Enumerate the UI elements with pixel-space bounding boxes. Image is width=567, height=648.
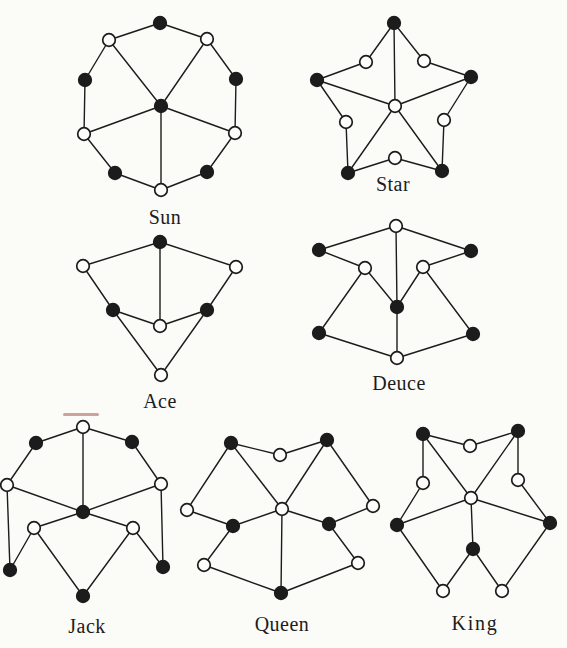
vertex-star-urw-white-dot xyxy=(418,55,431,68)
vertex-ace-mlb-black-dot xyxy=(107,304,120,317)
vertex-star-lrw-white-dot xyxy=(438,114,451,127)
vertex-queen-frw-white-dot xyxy=(367,500,380,513)
vertex-deuce-mrw-white-dot xyxy=(417,261,430,274)
vertex-sun-t-black-dot xyxy=(154,17,167,30)
scanned-figure-page: SunStarAceDeuceJackQueenKing xyxy=(0,0,567,648)
graph-label-sun: Sun xyxy=(149,206,182,228)
vertex-king-urw-white-dot xyxy=(512,474,525,487)
vertex-sun-r-black-dot xyxy=(230,73,243,86)
vertex-sun-lrw-white-dot xyxy=(229,127,242,140)
vertex-queen-llw-white-dot xyxy=(198,559,211,572)
vertex-deuce-c-black-dot xyxy=(391,301,404,314)
vertex-jack-tw-white-dot xyxy=(77,421,90,434)
graph-label-star: Star xyxy=(376,173,410,195)
vertex-queen-mrb-black-dot xyxy=(323,518,336,531)
vertex-jack-urb-black-dot xyxy=(126,436,139,449)
graph-label-deuce: Deuce xyxy=(372,372,426,394)
graphs-figure-canvas: SunStarAceDeuceJackQueenKing xyxy=(0,0,567,648)
vertex-queen-flw-white-dot xyxy=(181,504,194,517)
vertex-star-llw-white-dot xyxy=(340,116,353,129)
vertex-king-ulw-white-dot xyxy=(417,477,430,490)
vertex-star-t-black-dot xyxy=(388,17,401,30)
vertex-queen-trb-black-dot xyxy=(321,434,334,447)
vertex-sun-c-black-dot xyxy=(155,100,168,113)
vertex-ace-rw-white-dot xyxy=(230,261,243,274)
vertex-star-ulw-white-dot xyxy=(360,56,373,69)
vertex-king-blw-white-dot xyxy=(437,585,450,598)
vertex-deuce-lrb-black-dot xyxy=(467,328,480,341)
graph-label-jack: Jack xyxy=(68,615,106,637)
vertex-ace-mrb-black-dot xyxy=(201,304,214,317)
vertex-jack-lrw-white-dot xyxy=(127,522,140,535)
vertex-queen-lrw-white-dot xyxy=(352,557,365,570)
vertex-king-tmw-white-dot xyxy=(464,440,477,453)
edge-sun-r-lrw xyxy=(235,79,236,133)
vertex-king-mbb-black-dot xyxy=(467,543,480,556)
vertex-sun-tlw-white-dot xyxy=(103,34,116,47)
vertex-sun-llw-white-dot xyxy=(78,128,91,141)
vertex-star-bl-black-dot xyxy=(342,167,355,180)
edge-deuce-tw-c xyxy=(396,226,397,307)
vertex-deuce-llb-black-dot xyxy=(313,327,326,340)
vertex-jack-llw-white-dot xyxy=(28,522,41,535)
vertex-sun-trw-white-dot xyxy=(201,33,214,46)
vertex-sun-blb-black-dot xyxy=(109,167,122,180)
vertex-ace-lw-white-dot xyxy=(77,260,90,273)
vertex-star-c-white-dot xyxy=(389,100,402,113)
vertex-king-rb-black-dot xyxy=(544,517,557,530)
vertex-sun-l-black-dot xyxy=(79,74,92,87)
vertex-star-r-black-dot xyxy=(465,71,478,84)
vertex-king-brw-white-dot xyxy=(496,585,509,598)
vertex-deuce-urb-black-dot xyxy=(465,245,478,258)
vertex-queen-mlb-black-dot xyxy=(227,520,240,533)
vertex-queen-tmw-white-dot xyxy=(274,449,287,462)
vertex-queen-tlb-black-dot xyxy=(225,437,238,450)
vertex-king-tlb-black-dot xyxy=(417,428,430,441)
vertex-sun-bw-white-dot xyxy=(155,184,168,197)
graph-label-queen: Queen xyxy=(255,613,310,635)
vertex-queen-bb-black-dot xyxy=(275,587,288,600)
vertex-star-bw-white-dot xyxy=(389,152,402,165)
vertex-deuce-ulb-black-dot xyxy=(313,244,326,257)
vertex-star-br-black-dot xyxy=(436,165,449,178)
vertex-king-lb-black-dot xyxy=(391,519,404,532)
vertex-ace-c-white-dot xyxy=(154,320,167,333)
vertex-queen-c-white-dot xyxy=(276,503,289,516)
graph-label-ace: Ace xyxy=(143,390,177,412)
vertex-king-c-white-dot xyxy=(465,492,478,505)
vertex-jack-blb-black-dot xyxy=(4,564,17,577)
vertex-deuce-mlw-white-dot xyxy=(359,262,372,275)
vertex-king-trb-black-dot xyxy=(512,425,525,438)
vertex-ace-t-black-dot xyxy=(154,236,167,249)
scan-artifact xyxy=(63,413,99,416)
vertex-deuce-bw-white-dot xyxy=(391,352,404,365)
graph-label-king: King xyxy=(451,612,498,635)
vertex-jack-brb-black-dot xyxy=(157,561,170,574)
vertex-jack-ulb-black-dot xyxy=(30,437,43,450)
vertex-jack-rw-white-dot xyxy=(155,478,168,491)
vertex-deuce-tw-white-dot xyxy=(390,220,403,233)
edge-sun-llw-l xyxy=(84,80,85,134)
vertex-jack-c-black-dot xyxy=(77,506,90,519)
vertex-jack-lw-white-dot xyxy=(1,479,14,492)
vertex-ace-bw-white-dot xyxy=(155,369,168,382)
vertex-star-l-black-dot xyxy=(311,74,324,87)
edge-star-c-t xyxy=(394,23,395,106)
edge-queen-c-bb xyxy=(281,509,282,593)
vertex-sun-brb-black-dot xyxy=(201,166,214,179)
vertex-jack-bb-black-dot xyxy=(77,590,90,603)
